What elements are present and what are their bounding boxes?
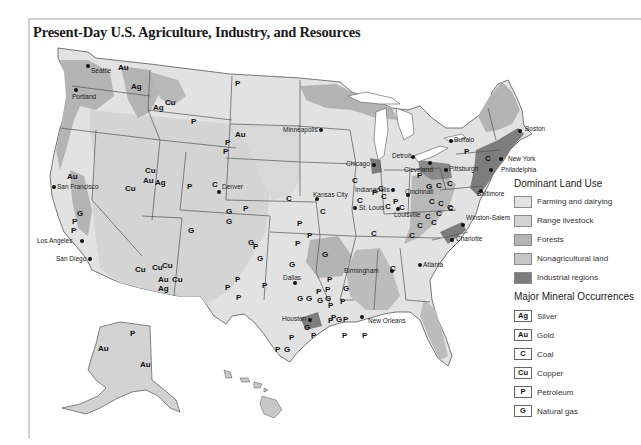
mineral-symbol: P: [393, 198, 398, 206]
mineral-symbol: G: [226, 218, 232, 226]
mineral-symbol: C: [212, 181, 218, 189]
mineral-symbol: G: [322, 251, 328, 259]
mineral-symbol: P: [225, 139, 230, 147]
city-marker-icon: [308, 318, 312, 322]
city-label: Pittsburgh: [449, 166, 478, 173]
legend-item-nonag: Nonagricultural land: [514, 249, 639, 268]
city-marker-icon: [411, 155, 415, 159]
legend-item-coal: C Coal: [514, 345, 639, 364]
city-label: Dallas: [283, 275, 301, 282]
mineral-symbol: G: [426, 183, 432, 191]
mineral-symbol: P: [187, 183, 192, 191]
mineral-symbol: Au: [98, 345, 109, 353]
mineral-symbol: C: [447, 204, 453, 212]
mineral-symbol: P: [262, 282, 267, 290]
city-label: Minneapolis: [283, 127, 318, 134]
mineral-symbol: P: [311, 332, 316, 340]
swatch-range: [514, 215, 532, 227]
mineral-symbol: P: [225, 284, 230, 292]
mineral-symbol: C: [357, 197, 363, 205]
city-marker-icon: [74, 88, 78, 92]
mineral-symbol: G: [514, 405, 532, 417]
mineral-symbol: P: [464, 148, 469, 156]
mineral-symbol: P: [253, 243, 258, 251]
city-label: Philadelphia: [501, 167, 536, 174]
mineral-symbol: C: [431, 219, 437, 227]
city-marker-icon: [518, 129, 522, 133]
hawaii-islands: [224, 370, 282, 418]
city-marker-icon: [52, 185, 56, 189]
legend-item-gold: Au Gold: [514, 326, 639, 345]
legend-label: Forests: [537, 235, 564, 244]
mineral-symbol: Au: [118, 64, 129, 72]
city-label: Charlotte: [456, 236, 482, 243]
legend-label: Silver: [537, 312, 557, 321]
city-label: New York: [508, 156, 535, 163]
legend-item-farming: Farming and dairying: [514, 192, 639, 211]
legend-label: Nonagricultural land: [537, 254, 608, 263]
swatch-farming: [514, 196, 532, 208]
mineral-symbol: P: [327, 276, 332, 284]
mineral-symbol: C: [385, 203, 391, 211]
mineral-symbol: G: [226, 208, 232, 216]
mineral-symbol: Cu: [145, 167, 156, 175]
mineral-symbol: P: [130, 330, 135, 338]
city-marker-icon: [461, 223, 465, 227]
mineral-symbol: C: [320, 208, 326, 216]
land-use-title: Dominant Land Use: [514, 178, 639, 189]
mineral-symbol: P: [325, 286, 330, 294]
mineral-symbol: Cu: [125, 185, 136, 193]
mineral-symbol: C: [438, 200, 444, 208]
legend-item-industrial: Industrial regions: [514, 268, 639, 287]
mineral-symbol: Ag: [514, 310, 532, 322]
city-label: Detroit: [392, 153, 411, 160]
legend-item-range: Range livestock: [514, 211, 639, 230]
mineral-symbol: P: [343, 316, 348, 324]
legend-label: Coal: [537, 350, 553, 359]
city-marker-icon: [319, 128, 323, 132]
mineral-symbol: P: [328, 302, 333, 310]
legend-label: Petroleum: [537, 388, 573, 397]
mineral-symbol: G: [188, 227, 194, 235]
city-label: St. Louis: [359, 205, 384, 212]
city-marker-icon: [428, 161, 432, 165]
mineral-symbol: G: [77, 210, 83, 218]
mineral-symbol: Cu: [165, 99, 176, 107]
legend-item-copper: Cu Copper: [514, 364, 639, 383]
mineral-symbol: G: [317, 297, 323, 305]
city-marker-icon: [360, 315, 364, 319]
mineral-symbol: C: [286, 195, 292, 203]
mineral-symbol: P: [417, 172, 422, 180]
mineral-symbol: G: [306, 295, 312, 303]
city-marker-icon: [80, 239, 84, 243]
swatch-forests: [514, 234, 532, 246]
city-label: Seattle: [91, 68, 111, 75]
mineral-symbol: P: [223, 148, 228, 156]
mineral-symbol: G: [343, 285, 349, 293]
mineral-symbol: G: [284, 346, 290, 354]
mineral-symbol: P: [514, 386, 532, 398]
mineral-symbol: C: [425, 213, 431, 221]
mineral-symbol: P: [71, 227, 76, 235]
mineral-symbol: C: [514, 348, 532, 360]
city-label: Chicago: [346, 161, 370, 168]
city-label: San Francisco: [57, 184, 99, 191]
city-marker-icon: [293, 281, 297, 285]
mineral-symbol: C: [417, 222, 423, 230]
city-label: Boston: [525, 126, 545, 133]
city-marker-icon: [88, 257, 92, 261]
mineral-symbol: C: [390, 265, 396, 273]
city-marker-icon: [86, 64, 90, 68]
legend-label: Copper: [537, 369, 563, 378]
legend-label: Natural gas: [537, 407, 578, 416]
mineral-symbol: P: [72, 218, 77, 226]
mineral-symbol: Cu: [172, 276, 183, 284]
city-marker-icon: [353, 206, 357, 210]
city-label: Winston-Salem: [466, 215, 510, 222]
mineral-symbol: C: [352, 177, 358, 185]
mineral-symbol: G: [289, 261, 295, 269]
mineral-symbol: Cu: [514, 367, 532, 379]
city-marker-icon: [418, 263, 422, 267]
mineral-symbol: C: [485, 155, 491, 163]
mineral-symbol: P: [236, 294, 241, 302]
